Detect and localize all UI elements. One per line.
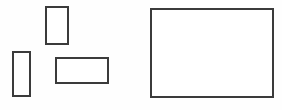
rectangle-large-landscape [151,9,273,97]
rectangle-tall-portrait [13,52,30,96]
rectangle-wide-landscape [56,58,108,83]
rectangles-diagram [0,0,282,110]
rectangle-small-portrait [46,7,68,44]
diagram-canvas [0,0,282,110]
